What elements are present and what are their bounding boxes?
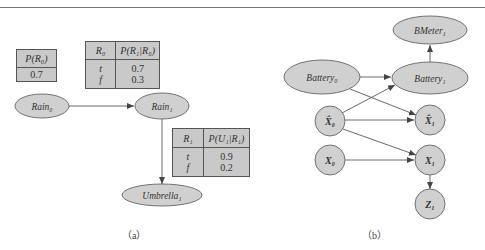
sensor-header-prob: P(U₁|R₁) bbox=[204, 129, 250, 148]
node-label-rain1: Rain₁ bbox=[150, 102, 172, 112]
node-label-umbrella1: Umbrella₁ bbox=[142, 191, 181, 201]
node-umbrella1: Umbrella₁ bbox=[122, 184, 202, 206]
node-bmeter1: BMeter₁ bbox=[393, 16, 467, 44]
node-label-xhat1: X̂₁ bbox=[424, 114, 435, 126]
sensor-row-cond: f bbox=[177, 162, 199, 173]
node-label-battery1: Battery₁ bbox=[414, 74, 445, 84]
transition-row-cond: f bbox=[90, 74, 111, 85]
node-x0: X₀ bbox=[315, 145, 345, 175]
dbn-diagram-canvas: Rain₀ Rain₁ Umbrella₁ BMeter₁ Battery₀ B… bbox=[0, 0, 485, 250]
node-xhat0: X̂₀ bbox=[315, 106, 345, 136]
sensor-table: R₁ P(U₁|R₁) t f 0.9 0.2 bbox=[172, 128, 250, 177]
caption-b: （b） bbox=[362, 227, 387, 242]
caption-a: （a） bbox=[122, 227, 146, 242]
sensor-row-cond: t bbox=[177, 151, 199, 162]
prior-header: P(R₀) bbox=[17, 50, 57, 68]
edge-battery0-xhat1 bbox=[350, 89, 416, 115]
transition-table: R₀ P(R₁|R₀) t f 0.7 0.3 bbox=[85, 41, 160, 89]
node-battery0: Battery₀ bbox=[284, 60, 360, 94]
node-xhat1: X̂₁ bbox=[415, 105, 445, 135]
node-label-x1: X₁ bbox=[424, 155, 435, 166]
node-label-xhat0: X̂₀ bbox=[324, 115, 336, 127]
prior-value: 0.7 bbox=[17, 68, 57, 82]
edge-xhat0-x1 bbox=[343, 129, 416, 155]
node-label-x0: X₀ bbox=[324, 155, 336, 166]
transition-header-cond: R₀ bbox=[86, 42, 116, 60]
node-x1: X₁ bbox=[415, 145, 445, 175]
node-z1: Z₁ bbox=[415, 189, 445, 219]
node-rain0: Rain₀ bbox=[15, 94, 69, 118]
node-label-z1: Z₁ bbox=[424, 199, 435, 210]
edges-a bbox=[69, 106, 162, 184]
transition-row-prob: 0.3 bbox=[120, 74, 155, 85]
node-label-bmeter1: BMeter₁ bbox=[414, 26, 446, 36]
sensor-row-prob: 0.9 bbox=[208, 151, 245, 162]
node-label-battery0: Battery₀ bbox=[306, 73, 337, 83]
sensor-header-cond: R₁ bbox=[173, 129, 204, 148]
node-battery1: Battery₁ bbox=[392, 62, 468, 94]
transition-row-prob: 0.7 bbox=[120, 63, 155, 74]
prior-table: P(R₀) 0.7 bbox=[16, 49, 57, 82]
transition-header-prob: P(R₁|R₀) bbox=[116, 42, 160, 60]
node-rain1: Rain₁ bbox=[135, 93, 189, 119]
sensor-row-prob: 0.2 bbox=[208, 162, 245, 173]
transition-row-cond: t bbox=[90, 63, 111, 74]
node-label-rain0: Rain₀ bbox=[30, 102, 52, 112]
